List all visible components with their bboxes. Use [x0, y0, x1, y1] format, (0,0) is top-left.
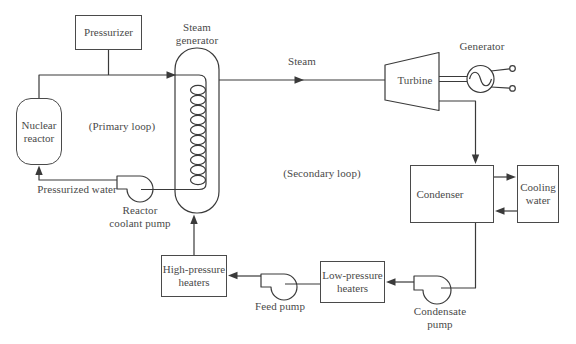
terminal-top: [510, 66, 516, 72]
generator-sine-wave: [470, 72, 492, 86]
primary-loop-label: (Primary loop): [72, 120, 172, 133]
steam-generator-label: Steam generator: [170, 21, 224, 47]
high-pressure-heaters-box: High-pressure heaters: [161, 255, 227, 297]
secondary-loop-label: (Secondary loop): [272, 167, 372, 180]
feed-pump-symbol: [261, 274, 297, 300]
high-pressure-heaters-label: High-pressure heaters: [162, 263, 226, 289]
steam-generator-coil: [191, 85, 206, 184]
exhaust-pipe: [439, 101, 476, 156]
low-pressure-heaters-label: Low-pressure heaters: [321, 269, 384, 295]
condensate-pump-label: Condensate pump: [400, 305, 480, 331]
condenser-box: Condenser: [410, 165, 494, 223]
arrow-into-condenser: [472, 155, 479, 165]
nuclear-reactor-label: Nuclear reactor: [17, 119, 61, 145]
arrow-steam-line: [295, 76, 305, 83]
arrow-into-condenser-return: [495, 207, 505, 214]
turbine-label: Turbine: [387, 74, 443, 87]
condensate-pump-symbol: [414, 276, 451, 304]
low-pressure-heaters-box: Low-pressure heaters: [320, 261, 385, 303]
feed-pump-label: Feed pump: [252, 300, 308, 313]
steam-flow-label: Steam: [277, 55, 327, 68]
arrow-into-steamgen-bottom: [190, 215, 197, 225]
arrow-into-cooling-water: [507, 173, 517, 180]
cooling-water-box: Cooling water: [517, 165, 559, 223]
pressurizer-label: Pressurizer: [84, 26, 133, 39]
arrow-into-reactor: [35, 166, 42, 176]
pressurizer-box: Pressurizer: [75, 15, 142, 50]
arrow-into-hp-heaters: [228, 272, 238, 279]
pressurized-water-label: Pressurized water: [37, 183, 117, 196]
steam-generator-vessel: [175, 48, 219, 213]
pwr-plant-diagram: Pressurizer Nuclear reactor Condenser Co…: [0, 0, 576, 344]
cold-leg-pipe: [39, 174, 117, 180]
nuclear-reactor-vessel: Nuclear reactor: [16, 98, 62, 165]
reactor-coolant-pump-label: Reactor coolant pump: [108, 204, 172, 230]
condenser-label: Condenser: [416, 188, 463, 201]
generator-label: Generator: [447, 40, 517, 53]
terminal-bottom: [510, 86, 516, 92]
cooling-water-label: Cooling water: [518, 181, 558, 207]
arrow-into-lp-heaters: [386, 278, 396, 285]
generator-shaft: [439, 77, 467, 82]
